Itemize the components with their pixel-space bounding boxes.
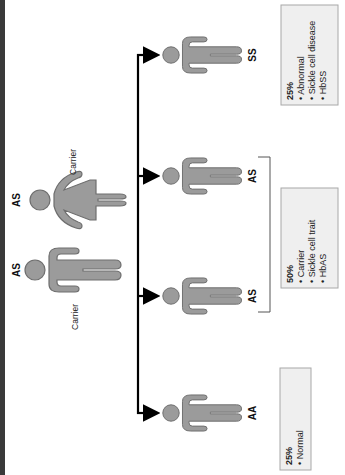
child-2: AS xyxy=(163,158,258,194)
child-figure-icon xyxy=(163,395,242,431)
child-1: SS xyxy=(163,37,258,73)
outcome-box-aa-percent: 25% xyxy=(284,447,294,465)
parent-male: AS Carrier xyxy=(11,248,121,330)
svg-text:• Sickle cell trait: • Sickle cell trait xyxy=(307,219,317,283)
child-2-genotype: AS xyxy=(247,169,258,183)
outcome-box-as-percent: 50% xyxy=(285,265,295,283)
outcome-box-ss-bullet-1: Abnormal xyxy=(296,56,306,95)
child-figure-icon xyxy=(163,278,242,314)
outcome-box-aa-bullet-1: Normal xyxy=(295,430,305,459)
svg-text:• HbSS: • HbSS xyxy=(318,71,328,100)
outcome-box-aa: 25% • Normal xyxy=(280,368,311,470)
female-figure-icon xyxy=(30,171,126,228)
svg-text:• HbAS: • HbAS xyxy=(318,254,328,283)
outcome-box-as-bullet-1: Carrier xyxy=(296,250,306,278)
child-3-genotype: AS xyxy=(247,289,258,303)
svg-text:• Sickle cell disease: • Sickle cell disease xyxy=(307,21,317,100)
outcome-box-as: 50% • Carrier • Sickle cell trait • HbAS xyxy=(281,188,338,288)
child-figure-icon xyxy=(163,37,242,73)
outcome-box-ss: 25% • Abnormal • Sickle cell disease • H… xyxy=(281,5,338,105)
male-figure-icon xyxy=(25,248,121,292)
child-1-genotype: SS xyxy=(247,48,258,62)
outcome-box-ss-bullet-2: Sickle cell disease xyxy=(307,21,317,95)
outcome-box-ss-bullet-3: HbSS xyxy=(318,71,328,95)
parent-male-genotype: AS xyxy=(11,263,22,277)
outcome-box-as-bullet-2: Sickle cell trait xyxy=(307,219,317,277)
child-figure-icon xyxy=(163,158,242,194)
outcome-box-as-bullet-3: HbAS xyxy=(318,254,328,278)
svg-text:• Carrier: • Carrier xyxy=(296,250,306,283)
child-4: AA xyxy=(163,395,258,431)
outcome-box-ss-percent: 25% xyxy=(285,82,295,100)
parent-female-genotype: AS xyxy=(11,193,22,207)
child-3: AS xyxy=(163,278,258,314)
carrier-bracket xyxy=(258,157,270,312)
svg-text:• Abnormal: • Abnormal xyxy=(296,56,306,100)
parent-male-status: Carrier xyxy=(70,304,80,330)
inheritance-diagram: AS Carrier AS Carrier SS AS AS xyxy=(0,0,345,475)
svg-text:• Normal: • Normal xyxy=(295,430,305,465)
parent-female-status: Carrier xyxy=(68,149,78,175)
child-4-genotype: AA xyxy=(247,406,258,420)
parent-female: AS Carrier xyxy=(11,149,126,229)
diagram-canvas: AS Carrier AS Carrier SS AS AS xyxy=(0,0,345,475)
